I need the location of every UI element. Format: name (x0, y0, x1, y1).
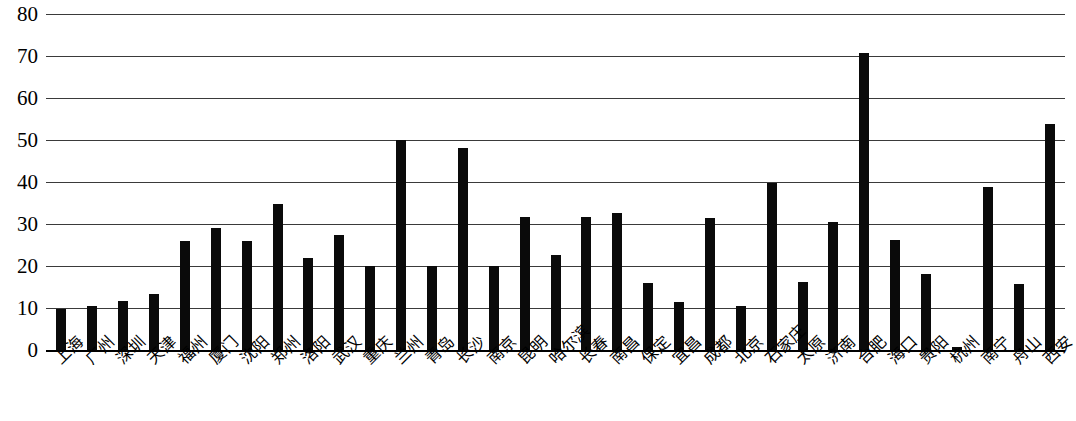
x-axis-tick-labels: 上海广州深圳天津福州厦门沈阳郑州洛阳武汉重庆兰州青岛长沙南京昆明哈尔滨长春南昌保… (46, 352, 1065, 421)
bar (551, 255, 561, 350)
bar (828, 222, 838, 350)
bar (180, 241, 190, 350)
bar (211, 228, 221, 350)
bar (767, 183, 777, 350)
bar (365, 266, 375, 350)
bar (1045, 124, 1055, 350)
bar (427, 266, 437, 350)
y-axis-tick-label: 20 (4, 256, 38, 277)
bar (983, 187, 993, 350)
bar (705, 218, 715, 350)
y-axis-tick-label: 10 (4, 298, 38, 319)
bar (334, 235, 344, 351)
y-axis-tick-label: 40 (4, 172, 38, 193)
bar (303, 258, 313, 350)
y-axis-tick-label: 70 (4, 46, 38, 67)
bar (890, 240, 900, 350)
y-axis-tick-labels: 80706050403020100 (0, 0, 38, 421)
bar (612, 213, 622, 350)
bars-container (46, 14, 1065, 350)
y-axis-tick-label: 60 (4, 88, 38, 109)
y-axis-tick-label: 80 (4, 4, 38, 25)
y-axis-tick-label: 30 (4, 214, 38, 235)
bar (520, 217, 530, 350)
y-axis-tick-label: 0 (4, 340, 38, 361)
bar (396, 140, 406, 350)
bar (458, 148, 468, 350)
bar (921, 274, 931, 350)
bar (859, 53, 869, 350)
plot-area (46, 14, 1065, 350)
bar (489, 266, 499, 350)
bar (242, 241, 252, 350)
y-axis-tick-label: 50 (4, 130, 38, 151)
bar (273, 204, 283, 350)
